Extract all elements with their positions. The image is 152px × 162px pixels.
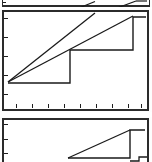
series-step-curve-bottom — [68, 130, 145, 158]
figure-root — [0, 0, 152, 162]
series-lower-step-fragment — [130, 157, 147, 161]
plot-canvas-main — [0, 9, 152, 113]
series-steep-line — [8, 13, 95, 82]
chart-panel-main — [0, 9, 152, 113]
chart-panel-bottom — [0, 117, 152, 162]
plot-canvas-bottom — [0, 117, 152, 162]
series-rising-line — [68, 130, 130, 158]
